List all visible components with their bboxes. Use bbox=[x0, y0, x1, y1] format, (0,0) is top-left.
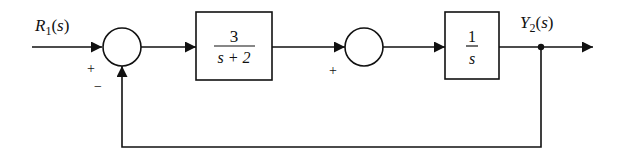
sum2-plus-sign: + bbox=[329, 63, 337, 78]
block2-denominator: s bbox=[469, 50, 475, 67]
summing-junction-1 bbox=[103, 28, 141, 66]
input-label: R1(s) bbox=[34, 16, 69, 38]
output-label: Y2(s) bbox=[520, 13, 553, 35]
block2-numerator: 1 bbox=[468, 28, 476, 45]
block1-numerator: 3 bbox=[230, 27, 239, 46]
sum1-plus-sign: + bbox=[87, 61, 95, 76]
sum1-minus-sign: − bbox=[94, 79, 102, 94]
block1-denominator: s + 2 bbox=[217, 49, 250, 66]
block-diagram: R1(s) + − 3 s + 2 + 1 s Y2(s) bbox=[0, 0, 627, 157]
summing-junction-2 bbox=[345, 28, 383, 66]
